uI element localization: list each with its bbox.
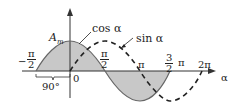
x-axis-label: α [221,73,228,83]
tick-3pi-over-2: 32 [165,53,173,74]
cos-label: cos α [92,23,121,34]
amplitude-label: Am [49,32,64,46]
neg-sign: − [18,57,26,67]
origin-label: 0 [73,74,79,84]
tick-2pi: 2π [198,60,211,70]
sinusoid-diagram [0,0,243,109]
tick-neg-pi-over-2: π2 [27,49,36,70]
cos-leader-line [79,32,91,44]
phase-brace [36,74,70,80]
tick-pi: π [138,60,145,70]
tick-pi-over-2: π2 [100,49,109,70]
y-axis-arrow-icon [67,8,73,16]
sin-label: sin α [136,33,163,44]
phase-shift-label: 90° [42,82,60,92]
tick-3pi-suffix: π [178,58,185,68]
